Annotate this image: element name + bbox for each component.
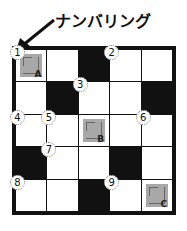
- cell-letter: A: [34, 69, 41, 79]
- grid-cell-r4c2[interactable]: 7: [47, 147, 77, 178]
- grid-cell-r4c3[interactable]: [79, 147, 109, 178]
- grid-cell-r3c3[interactable]: B: [79, 115, 109, 146]
- cell-number-badge: 4: [10, 110, 25, 125]
- cell-number-badge: 8: [10, 175, 25, 190]
- cell-letter: C: [160, 199, 167, 209]
- grid-cell-r5c1[interactable]: 8: [16, 180, 46, 211]
- grid-cell-r4c4[interactable]: [110, 147, 140, 178]
- grid-cell-r5c4[interactable]: 9: [110, 180, 140, 211]
- numbering-label: ナンバリング: [55, 8, 151, 32]
- grid-cell-r3c5[interactable]: 6: [142, 115, 172, 146]
- puzzle-grid: A12345B6789C: [12, 46, 176, 215]
- cell-number-badge: 2: [104, 45, 119, 60]
- grid-cell-r1c1[interactable]: A1: [16, 50, 46, 81]
- grid-cell-r3c2[interactable]: 5: [47, 115, 77, 146]
- cell-number-badge: 1: [10, 45, 25, 60]
- cell-number-badge: 9: [104, 175, 119, 190]
- grid-cell-r2c3[interactable]: 3: [79, 82, 109, 113]
- cell-number-badge: 6: [136, 110, 151, 125]
- grid-cell-r5c5[interactable]: C: [142, 180, 172, 211]
- grid-cell-r4c5[interactable]: [142, 147, 172, 178]
- cell-number-badge: 7: [41, 142, 56, 157]
- grid-cell-r1c4[interactable]: 2: [110, 50, 140, 81]
- grid-cell-r1c2[interactable]: [47, 50, 77, 81]
- grid-cell-r1c5[interactable]: [142, 50, 172, 81]
- cell-letter: B: [97, 134, 104, 144]
- grid-cell-r5c2[interactable]: [47, 180, 77, 211]
- grid-cell-r2c4[interactable]: [110, 82, 140, 113]
- cell-number-badge: 5: [41, 110, 56, 125]
- cell-number-badge: 3: [73, 77, 88, 92]
- grid-cell-r2c5[interactable]: [142, 82, 172, 113]
- grid-cell-r2c1[interactable]: [16, 82, 46, 113]
